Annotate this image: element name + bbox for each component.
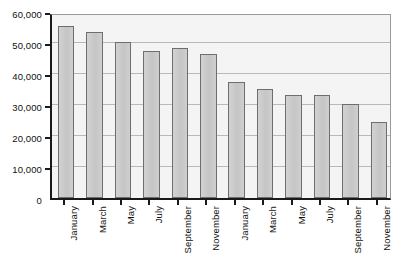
x-tick-mark xyxy=(347,200,349,205)
x-tick-mark xyxy=(319,200,321,205)
bar[interactable] xyxy=(314,95,330,198)
bar-chart: 010,00020,00030,00040,00050,00060,000 Ja… xyxy=(0,0,404,266)
bar[interactable] xyxy=(58,26,74,198)
y-tick-label: 60,000 xyxy=(12,9,42,20)
x-tick-mark xyxy=(234,200,236,205)
x-tick-label: March xyxy=(97,206,108,233)
bar[interactable] xyxy=(257,89,273,198)
x-tick-label: September xyxy=(182,206,193,253)
bar[interactable] xyxy=(228,82,244,198)
bar[interactable] xyxy=(200,54,216,198)
x-tick-mark xyxy=(177,200,179,205)
bar[interactable] xyxy=(115,42,131,198)
x-tick-mark xyxy=(376,200,378,205)
x-tick-mark xyxy=(92,200,94,205)
x-tick-mark xyxy=(291,200,293,205)
bar[interactable] xyxy=(172,48,188,198)
bar[interactable] xyxy=(143,51,159,198)
x-tick-mark xyxy=(262,200,264,205)
bar[interactable] xyxy=(285,95,301,198)
x-tick-label: March xyxy=(267,206,278,233)
x-tick-label: November xyxy=(210,206,221,251)
bar[interactable] xyxy=(371,122,387,198)
x-tick-label: January xyxy=(239,206,250,241)
x-tick-mark xyxy=(120,200,122,205)
x-tick-label: September xyxy=(352,206,363,253)
x-tick-label: July xyxy=(324,206,335,223)
bar[interactable] xyxy=(86,32,102,198)
x-tick-label: May xyxy=(125,206,136,224)
x-tick-label: January xyxy=(68,206,79,241)
x-tick-mark xyxy=(148,200,150,205)
y-tick-label: 50,000 xyxy=(12,40,42,51)
y-tick-label: 0 xyxy=(37,195,42,206)
x-tick-label: November xyxy=(381,206,392,251)
y-axis: 010,00020,00030,00040,00050,00060,000 xyxy=(0,0,50,214)
x-tick-mark xyxy=(205,200,207,205)
y-tick-label: 20,000 xyxy=(12,133,42,144)
y-tick-label: 10,000 xyxy=(12,164,42,175)
x-tick-label: July xyxy=(153,206,164,223)
bars-layer xyxy=(52,15,390,198)
x-tick-mark xyxy=(63,200,65,205)
x-tick-label: May xyxy=(296,206,307,224)
y-tick-label: 30,000 xyxy=(12,102,42,113)
plot-area xyxy=(50,14,391,200)
y-tick-label: 40,000 xyxy=(12,71,42,82)
bar[interactable] xyxy=(342,104,358,198)
